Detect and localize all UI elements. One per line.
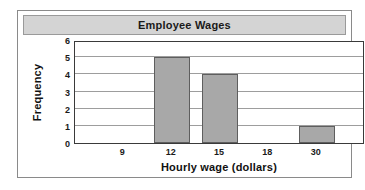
y-axis-tick-label: 1 bbox=[54, 122, 70, 132]
chart-figure: Employee Wages Frequency 0123456 9121518… bbox=[17, 10, 352, 178]
bar bbox=[202, 74, 238, 143]
page-title: Employee Wages bbox=[138, 19, 231, 31]
x-axis-title: Hourly wage (dollars) bbox=[74, 161, 364, 173]
chart-title-banner: Employee Wages bbox=[23, 15, 346, 35]
x-axis-tick-labels: 912151830 bbox=[74, 147, 364, 161]
y-axis-title: Frequency bbox=[31, 41, 47, 144]
x-axis-tick-label: 18 bbox=[247, 147, 287, 157]
bar bbox=[299, 126, 335, 143]
y-axis-tick-labels: 0123456 bbox=[50, 41, 70, 144]
plot-area bbox=[74, 41, 364, 144]
y-axis-tick-label: 6 bbox=[54, 36, 70, 46]
y-axis-tick-label: 0 bbox=[54, 139, 70, 149]
y-axis-tick-label: 5 bbox=[54, 53, 70, 63]
gridline bbox=[75, 56, 363, 57]
x-axis-tick-label: 12 bbox=[151, 147, 191, 157]
bar bbox=[154, 57, 190, 143]
x-axis-tick-label: 15 bbox=[199, 147, 239, 157]
y-axis-tick-label: 3 bbox=[54, 88, 70, 98]
y-axis-tick-label: 4 bbox=[54, 70, 70, 80]
x-axis-tick-label: 9 bbox=[102, 147, 142, 157]
x-axis-tick-label: 30 bbox=[296, 147, 336, 157]
y-axis-tick-label: 2 bbox=[54, 105, 70, 115]
